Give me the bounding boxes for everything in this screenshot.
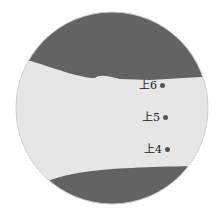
acupoint-shang6: 上6 xyxy=(139,80,165,91)
lower-dark-region xyxy=(0,166,221,222)
acupoint-dot-icon xyxy=(160,83,165,88)
acupoint-shang4: 上4 xyxy=(144,144,170,155)
acupoint-label: 上6 xyxy=(139,80,157,91)
acupoint-dot-icon xyxy=(165,147,170,152)
acupoint-dot-icon xyxy=(163,115,168,120)
wrist-illustration xyxy=(0,0,221,222)
acupoint-label: 上4 xyxy=(144,144,162,155)
acupoint-label: 上5 xyxy=(142,112,160,123)
acupoint-shang5: 上5 xyxy=(142,112,168,123)
